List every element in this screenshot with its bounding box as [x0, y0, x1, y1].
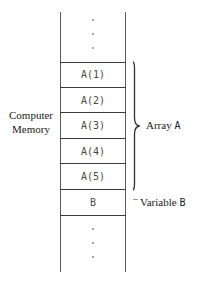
variable-label-prefix: Variable	[140, 196, 177, 208]
memory-diagram: A(1) A(2) A(3) A(4) A(5) B Computer Memo…	[0, 0, 207, 281]
variable-label: Variable B	[140, 196, 185, 210]
memory-label: Computer Memory	[3, 108, 59, 137]
variable-pointer-tick	[133, 199, 138, 200]
memory-cell-a1: A(1)	[60, 70, 126, 80]
array-label-name: A	[174, 120, 180, 131]
cell-separator	[60, 62, 126, 63]
ellipsis-dot	[92, 242, 94, 244]
cell-separator	[60, 112, 126, 113]
ellipsis-dot	[92, 228, 94, 230]
array-label: Array A	[146, 119, 180, 133]
ellipsis-dot	[92, 47, 94, 49]
memory-label-line-1: Computer	[3, 108, 59, 122]
memory-ellipsis-bottom	[60, 228, 126, 258]
array-label-prefix: Array	[146, 119, 172, 131]
memory-cell-a4: A(4)	[60, 147, 126, 157]
memory-cell-a3: A(3)	[60, 121, 126, 131]
memory-cell-b: B	[60, 198, 126, 208]
cell-separator	[60, 189, 126, 190]
ellipsis-dot	[92, 19, 94, 21]
cell-separator	[60, 215, 126, 216]
variable-label-name: B	[179, 197, 185, 208]
cell-separator	[60, 87, 126, 88]
memory-cell-a5: A(5)	[60, 172, 126, 182]
cell-separator	[60, 138, 126, 139]
cell-separator	[60, 163, 126, 164]
memory-label-line-2: Memory	[3, 122, 59, 136]
memory-ellipsis-top	[60, 19, 126, 49]
array-grouping-brace	[130, 61, 144, 191]
ellipsis-dot	[92, 33, 94, 35]
memory-cell-a2: A(2)	[60, 96, 126, 106]
ellipsis-dot	[92, 256, 94, 258]
